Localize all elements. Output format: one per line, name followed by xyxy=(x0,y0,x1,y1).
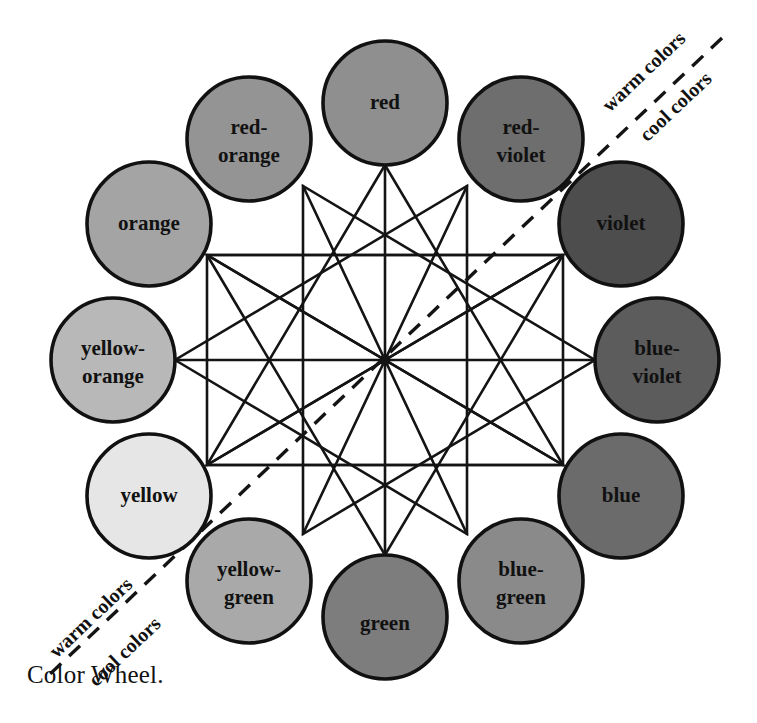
swatch-orange-label: orange xyxy=(118,211,180,235)
swatch-orange[interactable]: orange xyxy=(87,162,211,286)
swatch-yellow-green[interactable]: yellow- green xyxy=(187,519,311,643)
swatch-red-violet-circle[interactable] xyxy=(459,77,583,201)
hub-fan-line-2 xyxy=(207,360,385,465)
swatch-violet[interactable]: violet xyxy=(559,162,683,286)
swatch-blue-violet-label-line1: blue- xyxy=(634,336,680,360)
swatch-red-orange[interactable]: red- orange xyxy=(187,77,311,201)
connection-lines-group xyxy=(175,165,595,555)
swatch-yellow-orange-label-line1: yellow- xyxy=(81,336,145,360)
swatch-violet-label: violet xyxy=(597,211,646,235)
swatch-red[interactable]: red xyxy=(323,41,447,165)
swatch-red-violet[interactable]: red- violet xyxy=(459,77,583,201)
swatch-blue-label: blue xyxy=(602,483,641,507)
swatch-yellow-green-circle[interactable] xyxy=(187,519,311,643)
swatch-red-orange-circle[interactable] xyxy=(187,77,311,201)
swatch-yellow[interactable]: yellow xyxy=(87,434,211,558)
swatch-blue-violet[interactable]: blue- violet xyxy=(595,298,719,422)
swatch-red-label: red xyxy=(370,90,400,114)
color-wheel-canvas: red red- violet violet blue- violet xyxy=(0,0,757,723)
swatch-red-orange-label-line2: orange xyxy=(218,143,280,167)
swatch-yellow-green-label-line1: yellow- xyxy=(217,557,281,581)
swatch-blue-green-label-line2: green xyxy=(496,585,546,609)
swatch-green[interactable]: green xyxy=(323,555,447,679)
swatch-yellow-green-label-line2: green xyxy=(224,585,274,609)
figure-caption: Color Wheel. xyxy=(27,661,164,689)
swatch-yellow-orange-circle[interactable] xyxy=(51,298,175,422)
swatch-yellow-label: yellow xyxy=(120,483,178,507)
swatch-blue-violet-label-line2: violet xyxy=(633,364,682,388)
color-wheel-figure: red red- violet violet blue- violet xyxy=(0,0,757,723)
swatch-blue-green-label-line1: blue- xyxy=(498,557,544,581)
hub-fan-line-4 xyxy=(385,360,563,465)
swatch-green-label: green xyxy=(360,611,410,635)
swatch-blue-violet-circle[interactable] xyxy=(595,298,719,422)
swatch-red-orange-label-line1: red- xyxy=(231,115,268,139)
swatch-red-violet-label-line2: violet xyxy=(497,143,546,167)
hub-fan-line-1 xyxy=(207,255,385,360)
swatch-red-violet-label-line1: red- xyxy=(503,115,540,139)
swatch-blue-green[interactable]: blue- green xyxy=(459,519,583,643)
swatch-yellow-orange[interactable]: yellow- orange xyxy=(51,298,175,422)
swatch-blue[interactable]: blue xyxy=(559,434,683,558)
swatch-yellow-orange-label-line2: orange xyxy=(82,364,144,388)
swatch-blue-green-circle[interactable] xyxy=(459,519,583,643)
